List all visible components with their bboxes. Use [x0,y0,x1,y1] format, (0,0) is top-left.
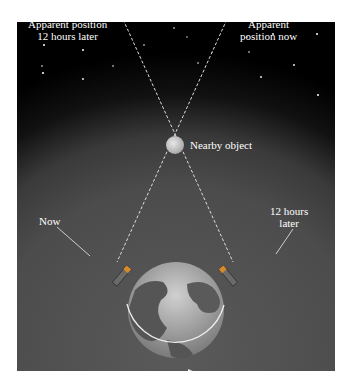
earth [128,262,224,359]
leader-now [57,227,90,256]
label-apparent-position-later: Apparent position 12 hours later [28,22,107,42]
label-now: Now [39,215,60,227]
leader-later [276,229,293,254]
label-12-hours-later: 12 hours later [270,205,308,229]
telescope-later [219,265,238,286]
diagram-panel: Apparent position 12 hours later Apparen… [17,22,335,371]
nearby-object [166,136,184,154]
parallax-diagram [17,22,335,371]
telescope-now [112,265,131,286]
label-nearby-object: Nearby object [190,139,252,151]
label-apparent-position-now: Apparent position now [240,22,297,42]
